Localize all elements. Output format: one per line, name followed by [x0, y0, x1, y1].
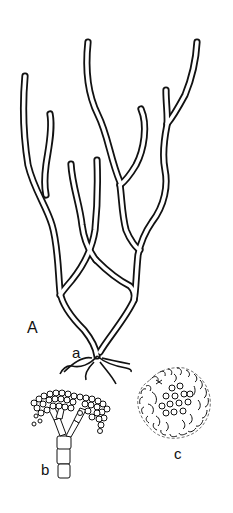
label-holdfast-a: a: [72, 345, 80, 360]
label-detail-c: c: [174, 446, 182, 461]
cluster-detail: [138, 368, 211, 439]
spores: [159, 383, 193, 416]
holdfast: [60, 356, 131, 384]
panel-label-A: A: [27, 320, 38, 336]
thallus-drawing: [0, 0, 233, 513]
botanical-figure: A a b c: [0, 0, 233, 513]
filaments: [140, 368, 209, 437]
branched-thallus: [24, 42, 197, 356]
label-detail-b: b: [41, 462, 49, 477]
